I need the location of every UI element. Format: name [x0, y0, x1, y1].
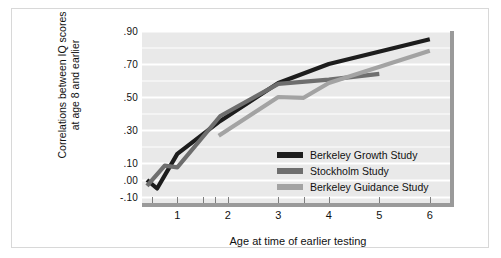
legend-label: Stockholm Study	[310, 165, 389, 177]
chart-legend: Berkeley Growth StudyStockholm StudyBerk…	[277, 147, 428, 195]
x-axis-major-tick	[430, 197, 431, 203]
y-axis-tick-label: .50	[123, 92, 138, 103]
y-axis-tick-labels: .90.70.50.30.10.00-.10	[108, 31, 138, 203]
y-axis-title-line-2: at age 8 and earlier	[69, 40, 82, 130]
x-axis-title: Age at time of earlier testing	[142, 235, 454, 247]
x-axis-major-tick	[379, 197, 380, 203]
figure-frame: Correlations between IQ scores at age 8 …	[11, 8, 489, 248]
x-axis-minor-tick	[304, 197, 305, 203]
x-axis-minor-tick	[152, 197, 153, 203]
y-axis-title: Correlations between IQ scores at age 8 …	[51, 0, 87, 170]
x-axis-tick-label: 6	[427, 209, 433, 221]
y-axis-tick-label: .70	[123, 59, 138, 70]
x-axis-tick-label: 3	[275, 209, 281, 221]
y-axis-tick-label: .00	[123, 175, 138, 186]
x-axis-major-tick	[329, 197, 330, 203]
legend-item: Berkeley Guidance Study	[277, 179, 428, 195]
x-axis-tick-label: 4	[326, 209, 332, 221]
x-axis-major-tick	[228, 197, 229, 203]
figure-container: Correlations between IQ scores at age 8 …	[0, 0, 501, 258]
legend-label: Berkeley Guidance Study	[310, 181, 428, 193]
x-axis-major-tick	[177, 197, 178, 203]
legend-swatch	[277, 184, 303, 190]
y-axis-title-line-1: Correlations between IQ scores	[56, 11, 69, 158]
legend-item: Berkeley Growth Study	[277, 147, 428, 163]
y-axis-tick-label: -.10	[120, 192, 138, 203]
x-axis-minor-tick	[203, 197, 204, 203]
x-axis-tick-label: 5	[376, 209, 382, 221]
right-axis-rule	[450, 31, 454, 207]
legend-swatch	[277, 168, 303, 174]
y-axis-tick-label: .90	[123, 26, 138, 37]
y-axis-tick-label: .30	[123, 125, 138, 136]
x-axis-major-tick	[278, 197, 279, 203]
legend-label: Berkeley Growth Study	[310, 149, 417, 161]
legend-swatch	[277, 152, 303, 158]
x-axis-minor-tick	[215, 197, 216, 203]
x-axis-tick-label: 1	[174, 209, 180, 221]
y-axis-tick-label: .10	[123, 158, 138, 169]
x-axis-tick-labels: 123456	[142, 209, 454, 225]
x-axis-tick-label: 2	[225, 209, 231, 221]
legend-item: Stockholm Study	[277, 163, 428, 179]
